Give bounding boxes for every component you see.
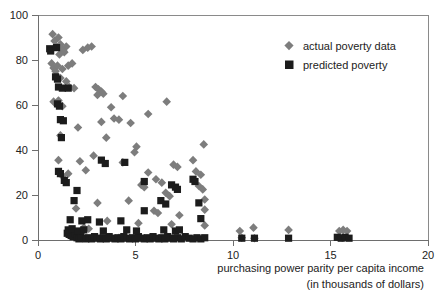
data-point-diamond bbox=[126, 119, 135, 128]
data-point-square bbox=[141, 178, 148, 185]
legend-diamond-icon bbox=[284, 41, 293, 50]
legend: actual poverty data predicted poverty bbox=[284, 40, 396, 71]
x-tick-label: 0 bbox=[35, 249, 41, 261]
data-point-square bbox=[197, 215, 204, 222]
y-tick-label: 80 bbox=[16, 54, 28, 66]
data-point-diamond bbox=[89, 151, 98, 160]
data-point-diamond bbox=[167, 220, 176, 229]
data-point-square bbox=[195, 199, 202, 206]
data-point-square bbox=[53, 44, 60, 51]
y-tick-label: 20 bbox=[16, 189, 28, 201]
data-point-square bbox=[80, 226, 87, 233]
data-point-square bbox=[65, 85, 72, 92]
data-point-diamond bbox=[200, 221, 209, 230]
data-point-square bbox=[133, 227, 140, 234]
data-point-square bbox=[141, 207, 148, 214]
data-point-square bbox=[345, 235, 352, 242]
x-tick-label: 5 bbox=[132, 249, 138, 261]
y-tick-label: 100 bbox=[10, 9, 28, 21]
data-point-diamond bbox=[249, 223, 258, 232]
data-point-diamond bbox=[284, 226, 293, 235]
data-point-square bbox=[123, 226, 130, 233]
data-point-square bbox=[121, 159, 128, 166]
data-point-square bbox=[100, 227, 107, 234]
data-point-diamond bbox=[76, 157, 85, 166]
data-point-diamond bbox=[199, 140, 208, 149]
data-point-diamond bbox=[175, 211, 184, 220]
data-point-square bbox=[54, 76, 61, 83]
data-point-square bbox=[174, 186, 181, 193]
scatter-chart: 020406080100 05101520 actual poverty dat… bbox=[0, 0, 444, 301]
y-tick-label: 60 bbox=[16, 99, 28, 111]
data-point-square bbox=[285, 235, 292, 242]
data-point-square bbox=[63, 179, 70, 186]
data-point-square bbox=[201, 234, 208, 241]
data-point-square bbox=[162, 200, 169, 207]
legend-square-icon bbox=[285, 61, 294, 70]
data-point-diamond bbox=[103, 217, 112, 226]
data-point-diamond bbox=[200, 205, 209, 214]
data-point-square bbox=[251, 235, 258, 242]
legend-label-actual: actual poverty data bbox=[303, 40, 397, 52]
data-point-square bbox=[60, 117, 67, 124]
x-axis-title-line1: purchasing power parity per capita incom… bbox=[217, 262, 424, 274]
plot-canvas: 020406080100 05101520 actual poverty dat… bbox=[0, 0, 444, 301]
data-point-diamond bbox=[124, 196, 133, 205]
data-point-square bbox=[160, 226, 167, 233]
data-point-diamond bbox=[119, 92, 128, 101]
data-point-diamond bbox=[74, 123, 83, 132]
data-point-square bbox=[96, 218, 103, 225]
data-point-square bbox=[70, 197, 77, 204]
data-point-square bbox=[117, 217, 124, 224]
data-point-diamond bbox=[162, 97, 171, 106]
data-point-diamond bbox=[97, 118, 106, 127]
x-tick-label: 15 bbox=[324, 249, 336, 261]
data-point-square bbox=[56, 103, 63, 110]
data-point-diamond bbox=[93, 199, 102, 208]
data-point-square bbox=[102, 160, 109, 167]
data-point-diamond bbox=[54, 156, 63, 165]
data-point-diamond bbox=[72, 204, 81, 213]
series-predicted-poverty bbox=[46, 44, 353, 242]
legend-label-predicted: predicted poverty bbox=[303, 59, 388, 71]
data-point-diamond bbox=[144, 110, 153, 119]
data-point-diamond bbox=[236, 227, 245, 236]
data-point-diamond bbox=[144, 168, 153, 177]
data-point-diamond bbox=[134, 219, 143, 228]
data-point-square bbox=[58, 134, 65, 141]
data-point-diamond bbox=[107, 103, 116, 112]
data-point-square bbox=[84, 216, 91, 223]
data-point-square bbox=[67, 216, 74, 223]
y-axis-ticks: 020406080100 bbox=[10, 9, 38, 246]
data-point-square bbox=[176, 226, 183, 233]
data-point-square bbox=[57, 170, 64, 177]
y-tick-label: 0 bbox=[22, 234, 28, 246]
x-axis-ticks: 05101520 bbox=[35, 240, 434, 261]
x-tick-label: 20 bbox=[422, 249, 434, 261]
data-point-diamond bbox=[81, 166, 90, 175]
x-tick-label: 10 bbox=[227, 249, 239, 261]
y-tick-label: 40 bbox=[16, 144, 28, 156]
data-point-square bbox=[73, 187, 80, 194]
data-point-square bbox=[238, 235, 245, 242]
x-axis-title-line2: (in thousands of dollars) bbox=[307, 278, 424, 290]
data-point-square bbox=[191, 178, 198, 185]
data-point-diamond bbox=[102, 133, 111, 142]
data-point-diamond bbox=[189, 156, 198, 165]
